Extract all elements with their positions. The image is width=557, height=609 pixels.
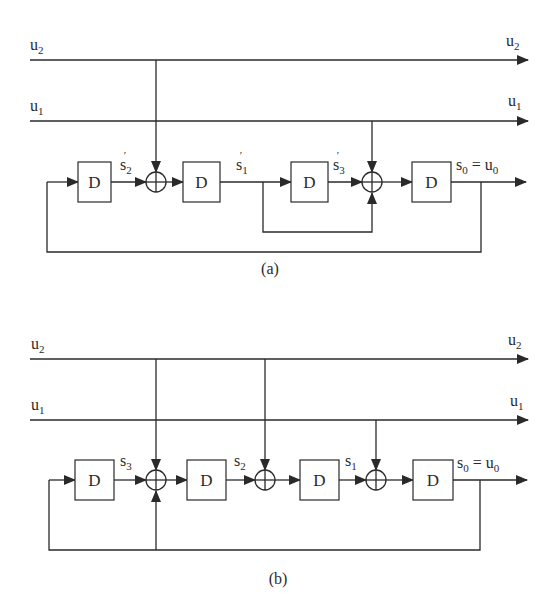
shift-register-diagram: u2 u2 u1 u1 D s2′ D s1′ D s3′ [0, 0, 557, 609]
u2-output-label: u2 [506, 32, 520, 52]
xor-adder-1 [146, 470, 166, 490]
state-label-s2-prime: s2′ [120, 149, 132, 176]
delay-block-3-label: D [313, 471, 325, 490]
u2-input-label: u2 [30, 36, 44, 56]
u1-output-label: u1 [508, 92, 522, 112]
u1-input-label: u1 [31, 396, 45, 416]
u1-output-label: u1 [510, 392, 524, 412]
panel-a-caption: (a) [261, 260, 279, 278]
xor-adder-3 [366, 470, 386, 490]
delay-block-1-label: D [88, 471, 100, 490]
state-label-s2: s2 [234, 452, 246, 472]
xor-adder-2 [255, 470, 275, 490]
panel-b-caption: (b) [269, 570, 288, 588]
state-label-s1: s1 [345, 452, 357, 472]
panel-a: u2 u2 u1 u1 D s2′ D s1′ D s3′ [30, 32, 528, 278]
xor-adder-1 [146, 172, 166, 192]
delay-block-1-label: D [88, 173, 100, 192]
delay-block-3-label: D [303, 173, 315, 192]
delay-block-2-label: D [200, 471, 212, 490]
u2-output-label: u2 [508, 331, 522, 351]
output-label-s0-u0: s0 = u0 [456, 156, 499, 176]
delay-block-4-label: D [425, 173, 437, 192]
state-label-s3-prime: s3′ [333, 149, 345, 176]
xor-adder-2 [362, 172, 382, 192]
delay-block-4-label: D [427, 471, 439, 490]
delay-block-2-label: D [195, 173, 207, 192]
state-label-s1-prime: s1′ [236, 149, 248, 176]
u1-input-label: u1 [30, 97, 44, 117]
state-label-s3: s3 [120, 452, 132, 472]
u2-input-label: u2 [31, 335, 45, 355]
output-label-s0-u0: s0 = u0 [457, 454, 500, 474]
panel-b: u2 u2 u1 u1 D s3 D s2 D [30, 331, 528, 588]
